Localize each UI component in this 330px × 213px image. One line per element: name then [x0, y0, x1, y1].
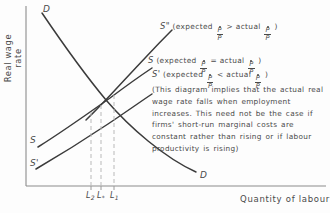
tick-label-lstar: L*	[97, 191, 105, 201]
tick-label-l2: L2	[86, 191, 95, 201]
inflation-fraction: P P	[264, 27, 270, 41]
inflation-fraction: P P	[217, 27, 223, 41]
tick-label-l1: L1	[110, 191, 119, 201]
legend-entry-s2: S" (expected P P > actual P P )	[160, 22, 278, 41]
supply-label-s: S	[30, 135, 36, 145]
demand-label-bottom: D	[200, 170, 207, 180]
x-tick-labels: L2 L* L1	[86, 191, 119, 201]
supply-label-s1: S'	[30, 158, 39, 168]
x-axis-title: Quantity of labour	[240, 194, 330, 204]
supply-curve-s1	[36, 94, 152, 169]
supply-curve-s	[38, 68, 152, 147]
figure-canvas: Real wage rate D D S S' L2	[0, 0, 330, 213]
explanatory-note: (This diagram implies that the actual re…	[152, 84, 328, 155]
demand-label-top: D	[43, 4, 50, 14]
